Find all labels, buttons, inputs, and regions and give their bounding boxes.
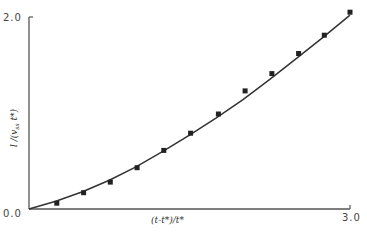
data-point-marker [322,33,327,38]
x-max-label: 3.0 [342,212,361,223]
data-point-marker [135,165,140,170]
data-point-marker [161,148,166,153]
svg-text:l /(vss t*): l /(vss t*) [9,108,20,147]
data-point-marker [54,201,59,206]
data-point-marker [348,10,353,15]
y-max-label: 2.0 [3,12,22,23]
data-point-marker [108,180,113,185]
data-point-marker [269,71,274,76]
chart: 2.0 0.0 3.0 (t-t*)/t* l /(vss t*) [0,0,367,235]
x-axis-title: (t-t*)/t* [151,215,184,225]
fit-curve [29,15,350,209]
data-markers [54,10,352,206]
origin-label: 0.0 [3,208,22,219]
data-point-marker [188,131,193,136]
y-axis-title: l /(vss t*) [9,108,20,147]
data-point-marker [216,112,221,117]
data-point-marker [81,190,86,195]
data-point-marker [296,51,301,56]
data-point-marker [243,88,248,93]
